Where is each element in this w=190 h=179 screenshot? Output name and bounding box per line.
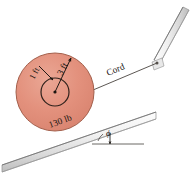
cord-anchor-pin [156,62,159,65]
support-arm-left-edge [154,7,183,60]
support-arm-body [154,7,189,63]
support-arm-right-edge [160,10,189,63]
mechanics-figure: 3 ft 1 ft 130 lb Cord ϕ [0,0,190,179]
incline-bottom-edge [2,119,156,172]
label-cord: Cord [105,61,126,78]
figure-canvas: 3 ft 1 ft 130 lb Cord ϕ [0,0,190,179]
support-arm [154,7,189,63]
label-angle-phi: ϕ [106,128,111,138]
